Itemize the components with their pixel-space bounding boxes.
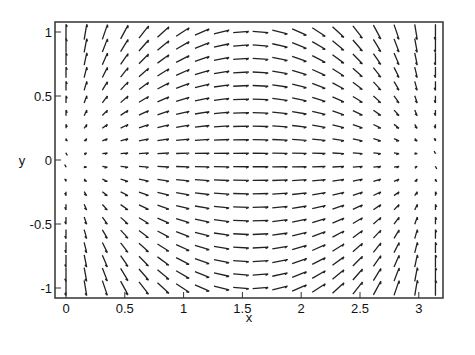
- field-arrow: [139, 231, 149, 238]
- field-arrow: [272, 85, 287, 88]
- field-arrow: [435, 166, 436, 169]
- field-arrow: [312, 56, 325, 63]
- field-arrow: [272, 273, 287, 276]
- field-arrow: [176, 56, 189, 63]
- field-arrow: [272, 57, 287, 61]
- field-arrow: [195, 219, 209, 223]
- field-arrow: [66, 110, 67, 116]
- field-arrow: [195, 29, 209, 35]
- field-arrow: [176, 271, 189, 279]
- field-arrow: [84, 204, 87, 210]
- field-arrow: [312, 206, 325, 209]
- field-arrow: [373, 192, 380, 196]
- field-arrow: [102, 53, 107, 65]
- field-arrow: [176, 125, 189, 127]
- field-arrow: [66, 124, 67, 128]
- field-arrow: [434, 138, 435, 141]
- field-arrow: [292, 259, 306, 264]
- field-arrow: [292, 84, 306, 88]
- y-tick-label: -0.5: [30, 217, 52, 232]
- field-arrow: [332, 192, 343, 195]
- field-arrow: [195, 43, 209, 49]
- field-arrow: [394, 67, 399, 77]
- arrows: [65, 24, 437, 296]
- field-arrow: [121, 54, 128, 65]
- field-arrow: [312, 245, 325, 251]
- field-arrow: [253, 99, 269, 101]
- field-arrow: [373, 139, 380, 142]
- field-arrow: [394, 153, 399, 155]
- field-arrow: [272, 220, 287, 222]
- field-arrow: [195, 125, 209, 127]
- field-arrow: [394, 243, 399, 253]
- field-arrow: [157, 257, 168, 265]
- field-arrow: [139, 125, 149, 128]
- field-arrow: [394, 255, 399, 267]
- y-tick-label: 1: [45, 25, 52, 40]
- field-arrow: [139, 26, 149, 38]
- field-arrow: [139, 68, 149, 76]
- field-arrow: [253, 180, 269, 181]
- field-arrow: [195, 112, 209, 114]
- field-arrow: [214, 112, 229, 114]
- field-arrow: [353, 256, 363, 266]
- field-arrow: [139, 192, 149, 196]
- plot-frame: [55, 22, 443, 298]
- field-arrow: [434, 151, 435, 154]
- field-arrow: [102, 67, 107, 77]
- field-arrow: [121, 205, 128, 210]
- field-arrow: [292, 206, 306, 208]
- field-arrow: [415, 230, 418, 239]
- field-arrow: [332, 283, 343, 294]
- field-arrow: [353, 139, 363, 142]
- field-arrow: [415, 81, 418, 90]
- field-arrow: [434, 110, 435, 116]
- field-arrow: [353, 125, 363, 129]
- field-arrow: [394, 53, 399, 65]
- field-arrow: [332, 179, 343, 181]
- field-arrow: [253, 31, 269, 33]
- field-arrow: [435, 255, 436, 267]
- field-arrow: [415, 96, 418, 103]
- field-arrow: [435, 204, 436, 210]
- field-arrow: [195, 139, 209, 140]
- field-arrow: [332, 139, 343, 142]
- field-arrow: [157, 192, 168, 195]
- field-arrow: [157, 218, 168, 223]
- field-arrow: [253, 140, 269, 141]
- field-arrow: [176, 219, 189, 223]
- field-arrow: [121, 125, 128, 129]
- field-arrow: [312, 180, 325, 182]
- field-arrow: [332, 153, 343, 155]
- field-arrow: [332, 244, 343, 251]
- field-arrow: [84, 280, 87, 295]
- field-arrow: [292, 180, 306, 181]
- field-arrow: [434, 53, 435, 65]
- field-arrow: [176, 139, 189, 141]
- field-arrow: [312, 193, 325, 195]
- field-arrow: [272, 126, 287, 128]
- field-arrow: [121, 25, 128, 39]
- x-tick-label: 3: [415, 301, 422, 316]
- field-arrow: [253, 58, 269, 60]
- field-arrow: [233, 86, 249, 87]
- field-arrow: [102, 179, 107, 181]
- field-arrow: [353, 218, 363, 224]
- field-arrow: [272, 246, 287, 249]
- field-arrow: [84, 268, 87, 282]
- field-arrow: [394, 82, 399, 91]
- field-arrow: [176, 28, 189, 37]
- field-arrow: [84, 179, 87, 181]
- field-arrow: [121, 217, 128, 224]
- field-arrow: [65, 204, 66, 210]
- field-arrow: [176, 193, 189, 196]
- field-arrow: [102, 25, 107, 40]
- field-arrow: [272, 193, 287, 194]
- field-arrow: [139, 243, 149, 251]
- field-arrow: [214, 167, 229, 168]
- field-arrow: [415, 242, 418, 253]
- field-arrow: [102, 192, 107, 196]
- field-arrow: [353, 82, 363, 89]
- field-arrow: [394, 96, 399, 103]
- field-arrow: [157, 205, 168, 209]
